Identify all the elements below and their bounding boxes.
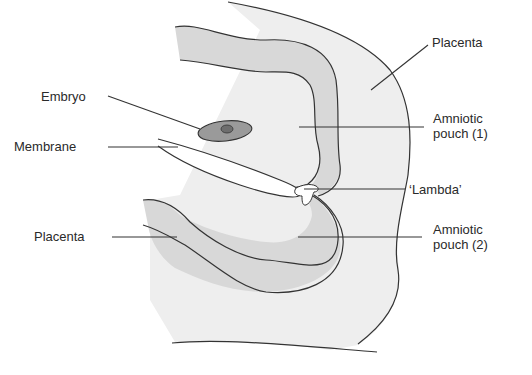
- label-amniotic-pouch-2-line2: pouch (2): [433, 237, 488, 252]
- label-embryo: Embryo: [41, 89, 86, 104]
- label-placenta-top: Placenta: [432, 35, 483, 50]
- leader-embryo: [108, 96, 200, 129]
- label-lambda: ‘Lambda’: [409, 182, 462, 197]
- label-amniotic-pouch-2-line1: Amniotic: [433, 222, 488, 237]
- label-amniotic-pouch-1: Amniotic pouch (1): [433, 111, 488, 141]
- label-membrane: Membrane: [14, 139, 76, 154]
- label-placenta-bottom: Placenta: [34, 229, 85, 244]
- label-amniotic-pouch-1-line1: Amniotic: [433, 111, 488, 126]
- label-amniotic-pouch-1-line2: pouch (1): [433, 126, 488, 141]
- embryo-core: [221, 125, 233, 133]
- label-amniotic-pouch-2: Amniotic pouch (2): [433, 222, 488, 252]
